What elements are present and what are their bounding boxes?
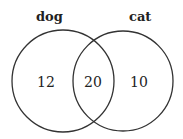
cat-label: cat (129, 10, 151, 23)
cat-only-value: 10 (130, 75, 148, 89)
dog-only-value: 12 (37, 75, 55, 89)
venn-diagram (0, 0, 183, 139)
dog-label: dog (36, 10, 63, 23)
intersection-value: 20 (84, 75, 102, 89)
